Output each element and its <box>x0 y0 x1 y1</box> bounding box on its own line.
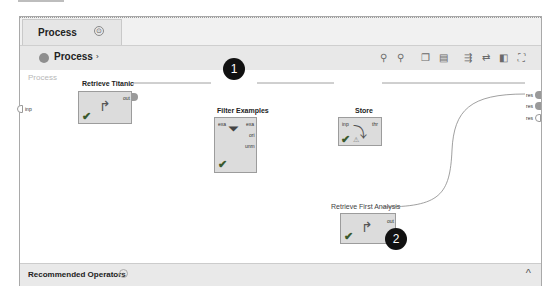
tab-label: Process <box>38 27 77 38</box>
auto-wire-icon[interactable]: ⇶ <box>462 52 474 64</box>
tab-process[interactable]: Process ⊙ <box>22 19 122 45</box>
retrieve-icon: ↱ <box>361 219 373 235</box>
port-label: ori <box>249 132 255 138</box>
operator-store[interactable]: ⤵ inp thr ✔ ⚠ <box>338 117 382 146</box>
fit-view-icon[interactable]: ⛶ <box>515 52 527 64</box>
check-icon: ✔ <box>82 110 91 123</box>
info-icon[interactable]: i <box>119 269 128 278</box>
process-toolbar: Process › ⚲ ⚲ ❐ ▤ ⇶ ⇄ ◧ ⛶ <box>20 45 541 71</box>
process-input-port-label: inp <box>25 106 32 112</box>
filter-icon: ⏷ <box>228 120 239 137</box>
port-label: exa <box>246 121 254 127</box>
copy-icon[interactable]: ❐ <box>419 52 431 64</box>
recommended-operators-label: Recommended Operators <box>28 270 126 279</box>
result-port[interactable] <box>535 114 541 122</box>
process-panel: Process ⊙ Process › ⚲ ⚲ ❐ ▤ ⇶ ⇄ ◧ ⛶ Proc… <box>19 16 542 286</box>
operator-filter-examples[interactable]: ⏷ exa exa ori unm ✔ <box>214 117 257 173</box>
paste-icon[interactable]: ▤ <box>437 52 449 64</box>
retrieve-icon: ↱ <box>99 98 111 114</box>
breadcrumb-arrow-icon[interactable]: › <box>96 52 99 61</box>
annotation-badge-1: 1 <box>223 58 245 80</box>
check-icon: ✔ <box>344 230 353 243</box>
check-icon: ✔ <box>218 158 227 171</box>
warning-icon: ⚠ <box>353 136 359 144</box>
port-label: inp <box>342 121 349 127</box>
operator-retrieve-titanic[interactable]: ↱ out ✔ <box>78 91 132 124</box>
check-icon: ✔ <box>341 133 350 146</box>
zoom-out-icon[interactable]: ⚲ <box>394 52 406 64</box>
port-label: exa <box>218 121 226 127</box>
zoom-in-icon[interactable]: ⚲ <box>377 52 389 64</box>
operator-title: Retrieve Titanic <box>82 80 134 87</box>
port-label: thr <box>372 121 378 127</box>
process-icon <box>39 53 49 63</box>
result-port[interactable] <box>535 91 541 99</box>
arrange-icon[interactable]: ◧ <box>497 52 509 64</box>
pin-icon[interactable]: ⊙ <box>94 26 104 36</box>
result-port-label: res <box>526 92 533 98</box>
breadcrumb-process[interactable]: Process <box>54 51 93 62</box>
port-label: out <box>387 218 394 224</box>
operator-title: Filter Examples <box>217 107 269 114</box>
result-port[interactable] <box>535 102 541 110</box>
expand-caret-icon[interactable]: ^ <box>526 267 531 279</box>
result-port-label: res <box>526 103 533 109</box>
port-label: out <box>123 95 130 101</box>
operator-title: Retrieve First Analysis <box>331 203 400 210</box>
annotation-badge-2: 2 <box>385 228 407 250</box>
recommended-operators-bar[interactable]: Recommended Operators i ^ <box>20 263 541 286</box>
result-port-label: res <box>526 115 533 121</box>
rewire-icon[interactable]: ⇄ <box>480 52 492 64</box>
port-label: unm <box>245 143 255 149</box>
process-input-port[interactable] <box>17 105 23 113</box>
operator-title: Store <box>355 107 373 114</box>
window-edge <box>18 0 64 2</box>
process-canvas[interactable]: Process inp Retrieve Titanic ↱ out ✔ Fil… <box>20 70 541 263</box>
